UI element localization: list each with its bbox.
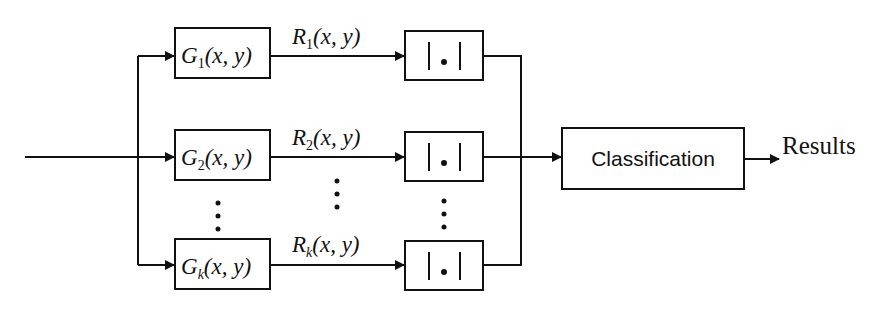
svg-text:G2(x, y): G2(x, y) (181, 145, 252, 173)
abs-box-2 (405, 132, 483, 181)
filter-box-gk: Gk(x, y) (175, 239, 270, 289)
classification-box: Classification (562, 128, 744, 189)
svg-text:Gk(x, y): Gk(x, y) (181, 254, 251, 282)
abs-ellipsis (442, 199, 447, 230)
response-ellipsis (335, 179, 340, 210)
filter-box-g1: G1(x, y) (175, 28, 270, 78)
abs-box-k (405, 241, 483, 290)
filter-bank-diagram: G1(x, y) G2(x, y) Gk(x, y) R1(x, y) R2(x… (0, 0, 889, 310)
filter-ellipsis (216, 201, 221, 232)
output-bus (483, 56, 521, 265)
response-label-r1: R1(x, y) (291, 24, 360, 52)
svg-text:G1(x, y): G1(x, y) (181, 43, 252, 71)
response-label-r2: R2(x, y) (291, 125, 360, 153)
filter-box-g2: G2(x, y) (175, 130, 270, 180)
results-label: Results (782, 132, 856, 159)
response-label-rk: Rk(x, y) (291, 232, 360, 260)
abs-box-1 (405, 31, 483, 80)
svg-text:Classification: Classification (591, 147, 715, 170)
